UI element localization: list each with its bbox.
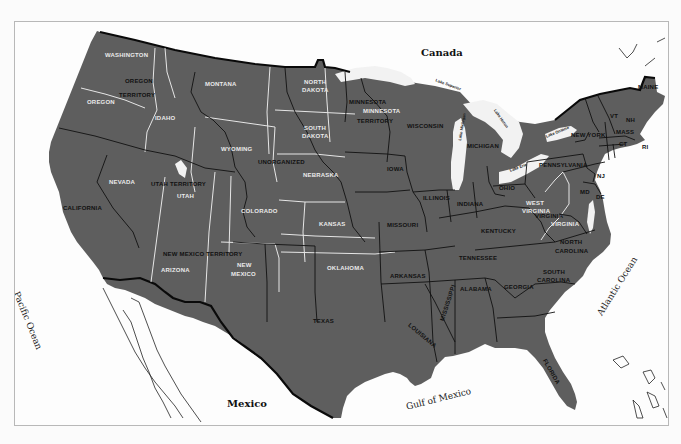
label-connecticut: CT xyxy=(619,141,627,148)
label-north-dakota-1: NORTH xyxy=(304,79,326,86)
label-iowa: IOWA xyxy=(387,166,404,173)
label-michigan: MICHIGAN xyxy=(467,143,499,150)
label-west-virginia-1: WEST xyxy=(526,200,544,207)
label-rhode-island: RI xyxy=(642,144,648,151)
label-kentucky: KENTUCKY xyxy=(481,228,516,235)
label-georgia: GEORGIA xyxy=(504,284,534,291)
label-virginia-modern: VIRGINIA xyxy=(551,221,579,228)
label-texas: TEXAS xyxy=(313,318,334,325)
label-new-mexico-2: MEXICO xyxy=(231,271,256,278)
label-south-dakota-2: DAKOTA xyxy=(302,133,328,140)
label-delaware: DE xyxy=(596,194,605,201)
label-minnesota: MINNESOTA xyxy=(363,108,400,115)
label-california: CALIFORNIA xyxy=(63,205,102,212)
label-nebraska: NEBRASKA xyxy=(303,172,339,179)
label-new-mexico-1: NEW xyxy=(237,262,252,269)
label-mexico: Mexico xyxy=(227,398,267,409)
label-illinois: ILLINOIS xyxy=(423,195,450,202)
label-massachusetts: MASS xyxy=(616,129,634,136)
label-pennsylvania: PENNSYLVANIA xyxy=(539,162,588,169)
label-missouri: MISSOURI xyxy=(387,222,418,229)
label-utah-territory: UTAH TERRITORY xyxy=(151,181,206,188)
label-wisconsin: WISCONSIN xyxy=(407,123,443,130)
label-north-carolina-1: NORTH xyxy=(560,239,582,246)
label-south-carolina-2: CAROLINA xyxy=(537,277,570,284)
label-new-jersey: NJ xyxy=(597,173,605,180)
label-colorado: COLORADO xyxy=(241,208,278,215)
label-utah: UTAH xyxy=(177,193,194,200)
label-montana: MONTANA xyxy=(205,81,237,88)
label-arizona: ARIZONA xyxy=(161,267,190,274)
label-indiana: INDIANA xyxy=(457,201,483,208)
label-south-carolina-1: SOUTH xyxy=(543,269,565,276)
label-idaho: IDAHO xyxy=(155,115,175,122)
label-minnesota-territory-1: MINNESOTA xyxy=(349,99,386,106)
label-north-dakota-2: DAKOTA xyxy=(302,87,328,94)
label-new-mexico-territory: NEW MEXICO TERRITORY xyxy=(163,251,242,258)
label-oregon-territory-1: OREGON xyxy=(125,78,153,85)
map-frame: Canada Mexico Pacific Ocean Atlantic Oce… xyxy=(14,21,669,426)
label-vermont: VT xyxy=(610,113,618,120)
label-nevada: NEVADA xyxy=(109,179,135,186)
label-oklahoma: OKLAHOMA xyxy=(327,265,364,272)
label-south-dakota-1: SOUTH xyxy=(304,125,326,132)
label-alabama: ALABAMA xyxy=(460,286,492,293)
label-minnesota-territory-2: TERRITORY xyxy=(357,118,393,125)
label-washington: WASHINGTON xyxy=(105,52,148,59)
label-canada: Canada xyxy=(421,47,463,58)
label-kansas: KANSAS xyxy=(319,221,346,228)
label-maine: MAINE xyxy=(638,84,658,91)
label-tennessee: TENNESSEE xyxy=(459,255,497,262)
label-maryland: MD xyxy=(580,189,590,196)
label-new-hampshire: NH xyxy=(626,117,635,124)
label-oregon: OREGON xyxy=(87,99,115,106)
label-ohio: OHIO xyxy=(499,185,515,192)
label-new-york: NEW YORK xyxy=(571,132,606,139)
label-virginia: VIRGINIA xyxy=(535,213,563,220)
label-oregon-territory-2: TERRITORY xyxy=(119,92,155,99)
label-unorganized: UNORGANIZED xyxy=(258,159,305,166)
label-north-carolina-2: CAROLINA xyxy=(555,248,588,255)
label-wyoming: WYOMING xyxy=(221,146,252,153)
label-arkansas: ARKANSAS xyxy=(390,273,426,280)
